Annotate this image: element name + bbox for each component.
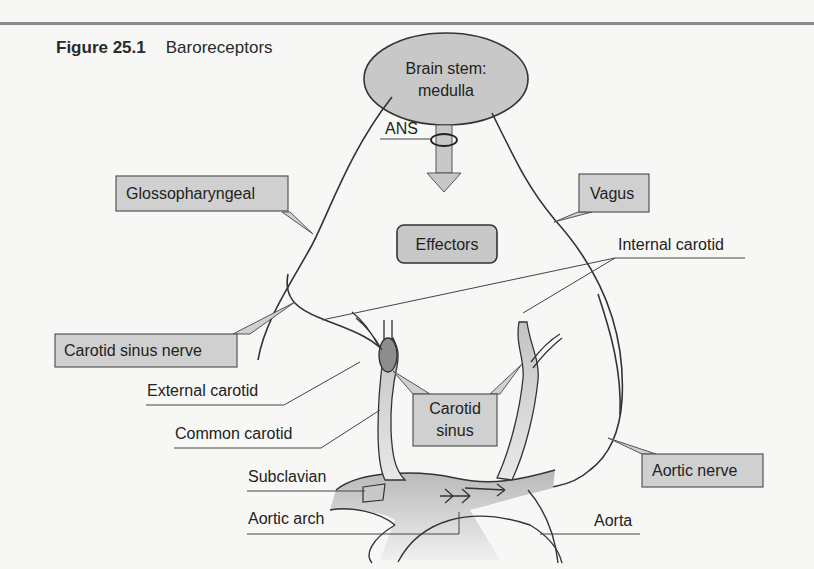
svg-text:External carotid: External carotid (147, 382, 258, 399)
vagus-nerve (492, 113, 622, 488)
carotid-sinus-nerve-label: Carotid sinus nerve (64, 342, 202, 359)
svg-text:Internal carotid: Internal carotid (618, 236, 724, 253)
callout-carotid-sinus: Carotid sinus (393, 364, 522, 446)
callout-vagus: Vagus (554, 174, 649, 222)
carotid-sinus-label-2: sinus (436, 422, 473, 439)
brain-stem-node: Brain stem: medulla (364, 33, 528, 125)
svg-text:Subclavian: Subclavian (248, 468, 326, 485)
right-common-carotid (497, 322, 538, 480)
label-external-carotid: External carotid (146, 362, 360, 405)
label-aorta: Aorta (540, 512, 640, 534)
ans-label: ANS (385, 120, 418, 137)
callout-aortic-nerve: Aortic nerve (608, 438, 763, 487)
vagus-branch (598, 294, 620, 415)
ans-arrow (427, 125, 461, 192)
glossopharyngeal-label: Glossopharyngeal (126, 185, 255, 202)
callout-glossopharyngeal: Glossopharyngeal (116, 176, 313, 234)
vagus-label: Vagus (590, 185, 634, 202)
brain-stem-label-1: Brain stem: (406, 60, 487, 77)
svg-text:Common carotid: Common carotid (175, 425, 292, 442)
effectors-label: Effectors (416, 236, 479, 253)
svg-text:Aortic arch: Aortic arch (248, 510, 324, 527)
svg-text:Aorta: Aorta (594, 512, 632, 529)
aortic-nerve-label: Aortic nerve (652, 462, 737, 479)
brain-stem-label-2: medulla (418, 82, 474, 99)
label-internal-carotid: Internal carotid (322, 236, 745, 320)
carotid-sinus-label-1: Carotid (429, 400, 481, 417)
baroreceptor-diagram: Brain stem: medulla ANS Effectors (0, 0, 814, 569)
carotid-sinus-nerve-line (287, 274, 390, 357)
label-common-carotid: Common carotid (174, 410, 380, 448)
effectors-node: Effectors (397, 225, 497, 263)
